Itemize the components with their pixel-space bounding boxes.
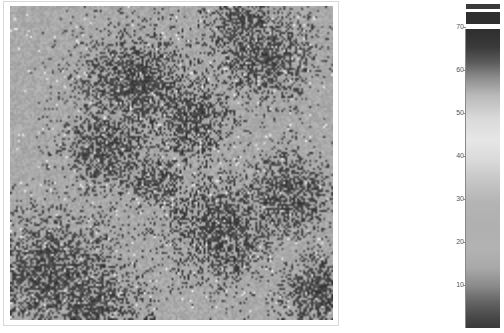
colorbar-tick-mark bbox=[463, 27, 466, 28]
colorbar-tick-mark bbox=[463, 199, 466, 200]
colorbar bbox=[466, 4, 500, 328]
intensity-map-canvas bbox=[10, 6, 333, 320]
colorbar-tick-mark bbox=[463, 242, 466, 243]
colorbar-tick-mark bbox=[463, 70, 466, 71]
colorbar-tick-mark bbox=[463, 285, 466, 286]
colorbar-tick-mark bbox=[463, 156, 466, 157]
colorbar-swatch-second bbox=[466, 12, 500, 24]
colorbar-tick-mark bbox=[463, 113, 466, 114]
colorbar-axis bbox=[465, 29, 466, 328]
colorbar-swatch-top bbox=[466, 4, 500, 9]
intensity-map bbox=[10, 6, 333, 320]
colorbar-gradient bbox=[466, 29, 500, 328]
